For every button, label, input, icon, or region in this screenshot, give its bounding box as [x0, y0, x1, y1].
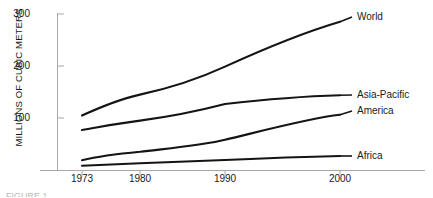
data-series-lines [82, 22, 340, 166]
series-label-world: World [357, 11, 383, 22]
series-line-africa [82, 156, 340, 166]
series-line-world [82, 22, 340, 116]
series-label-africa: Africa [357, 150, 383, 161]
series-label-asia-pacific: Asia-Pacific [357, 89, 409, 100]
series-line-america [82, 115, 340, 160]
figure-caption-cropped: FIGURE 1 [6, 191, 126, 197]
figure-container: MILLIONS OF CUBIC METERS 300 200 100 197… [0, 0, 433, 198]
series-label-leader-lines [340, 17, 352, 156]
leader-line-america [340, 111, 352, 115]
leader-line-world [340, 17, 352, 22]
series-label-america: America [357, 105, 394, 116]
